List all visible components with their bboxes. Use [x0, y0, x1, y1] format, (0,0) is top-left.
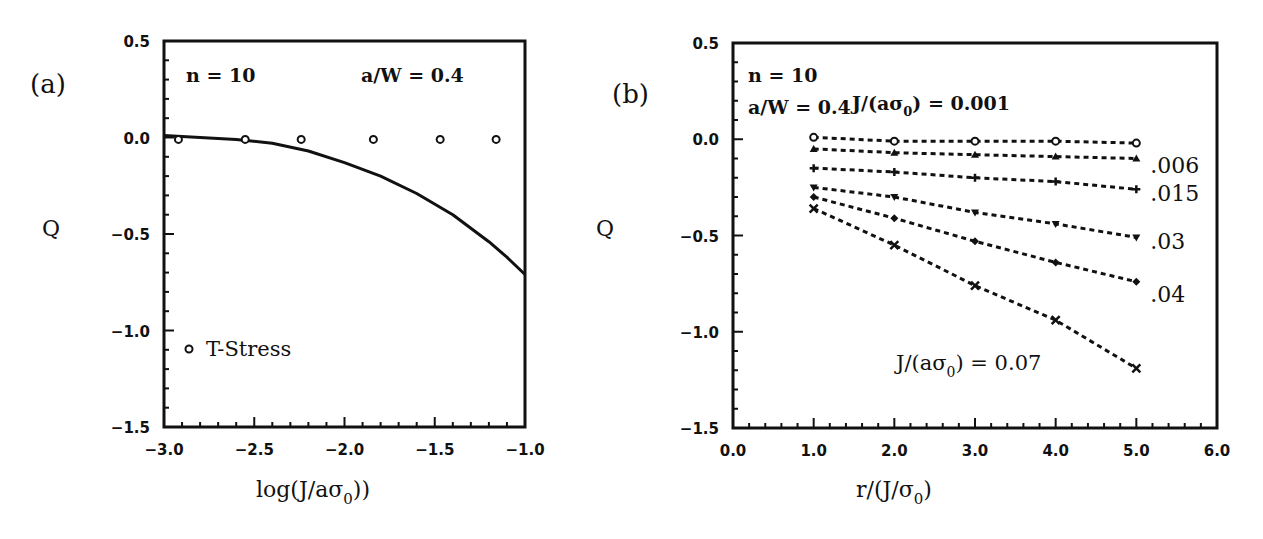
panel-a-x-axis-title: log(J/aσ0)): [256, 477, 370, 508]
y-tick-label: −1.5: [111, 419, 150, 437]
panel-a-y-axis-title: Q: [42, 216, 60, 241]
x-tick-label: 6.0: [1204, 442, 1231, 460]
circle-marker-icon: [175, 136, 182, 143]
y-tick-label: −1.0: [111, 323, 150, 341]
q-curve-line: [164, 136, 525, 275]
panel-b-x-axis-title: r/(J/σ0): [856, 477, 932, 508]
x-tick-label: 4.0: [1042, 442, 1069, 460]
circle-marker-icon: [810, 134, 817, 141]
panel-a-frame: [164, 41, 525, 427]
panel-b-chart: 0.01.02.03.04.05.06.00.50.0−0.5−1.0−1.5 …: [596, 35, 1230, 508]
panel-b-annotation-bottom: J/(aσ0) = 0.07: [894, 351, 1041, 380]
circle-marker-icon: [298, 136, 305, 143]
panel-a-label: (a): [30, 69, 66, 99]
x-tick-label: 2.0: [881, 442, 908, 460]
panel-a-ticks: −3.0−2.5−2.0−1.5−1.00.50.0−0.5−1.0−1.5: [111, 33, 545, 459]
panel-b-series: .006.015.03.04: [810, 134, 1200, 373]
panel-b-annotation-top: J/(aσ0) = 0.001: [850, 92, 1010, 119]
circle-marker-icon: [891, 138, 898, 145]
panel-b-annotation-aw: a/W = 0.4: [748, 96, 851, 118]
panel-a-xlabel-sub: 0: [343, 490, 353, 508]
x-tick-label: −2.0: [325, 441, 364, 459]
panel-a-chart: −3.0−2.5−2.0−1.5−1.00.50.0−0.5−1.0−1.5 (…: [30, 33, 545, 508]
triangle-down-marker-icon: [1132, 234, 1140, 241]
y-tick-label: −0.5: [680, 228, 719, 246]
legend-circle-icon: [186, 346, 193, 353]
circle-marker-icon: [437, 136, 444, 143]
x-tick-label: 1.0: [800, 442, 827, 460]
annot-top-pre: J/(aσ: [850, 92, 903, 114]
x-tick-label: −2.5: [235, 441, 274, 459]
y-tick-label: −1.5: [680, 420, 719, 438]
circle-marker-icon: [242, 136, 249, 143]
panel-a-series: [164, 136, 525, 275]
y-tick-label: −1.0: [680, 324, 719, 342]
annot-top-post: ) = 0.001: [912, 92, 1010, 114]
x-tick-label: −3.0: [144, 441, 183, 459]
diamond-marker-icon: [971, 237, 979, 245]
series-end-label: .006: [1150, 153, 1199, 178]
panel-b-annotation-n: n = 10: [748, 64, 817, 86]
plus-marker-icon: [890, 168, 898, 176]
x-tick-label: −1.5: [415, 441, 454, 459]
x-marker-icon: [1132, 364, 1140, 372]
y-tick-label: 0.0: [692, 131, 719, 149]
panel-a-xlabel-main: log(J/aσ: [256, 477, 343, 502]
diamond-marker-icon: [1052, 258, 1060, 266]
annot-bottom-post: ) = 0.07: [955, 351, 1041, 375]
series-line: [814, 209, 1137, 369]
panel-a-xlabel-end: )): [353, 477, 370, 502]
panel-a-annotation-aw: a/W = 0.4: [361, 64, 464, 86]
panel-b-label: (b): [612, 79, 649, 109]
y-tick-label: −0.5: [111, 226, 150, 244]
circle-marker-icon: [1052, 138, 1059, 145]
circle-marker-icon: [370, 136, 377, 143]
series-end-label: .015: [1150, 181, 1199, 206]
y-tick-label: 0.0: [123, 130, 150, 148]
circle-marker-icon: [972, 138, 979, 145]
figure: −3.0−2.5−2.0−1.5−1.00.50.0−0.5−1.0−1.5 (…: [0, 0, 1263, 539]
x-tick-label: 0.0: [720, 442, 747, 460]
panel-b-xlabel-end: ): [923, 477, 932, 502]
panel-a-annotation-n: n = 10: [186, 64, 255, 86]
plus-marker-icon: [1052, 178, 1060, 186]
series-end-label: .03: [1150, 229, 1185, 254]
x-tick-label: 5.0: [1123, 442, 1150, 460]
plus-marker-icon: [810, 164, 818, 172]
legend-label-t-stress: T-Stress: [206, 337, 291, 361]
diamond-marker-icon: [1132, 278, 1140, 286]
diamond-marker-icon: [810, 193, 818, 201]
annot-bottom-pre: J/(aσ: [894, 351, 947, 375]
y-tick-label: 0.5: [692, 35, 719, 53]
series-end-label: .04: [1150, 282, 1185, 307]
annot-top-sub: 0: [903, 104, 912, 119]
plus-marker-icon: [1132, 185, 1140, 193]
panel-b-xlabel-sub: 0: [914, 490, 924, 508]
y-tick-label: 0.5: [123, 33, 150, 51]
panel-b-y-axis-title: Q: [596, 216, 614, 241]
annot-bottom-sub: 0: [947, 364, 956, 380]
x-tick-label: −1.0: [505, 441, 544, 459]
circle-marker-icon: [493, 136, 500, 143]
panel-b-xlabel-main: r/(J/σ: [856, 477, 914, 502]
plus-marker-icon: [971, 174, 979, 182]
x-tick-label: 3.0: [962, 442, 989, 460]
diamond-marker-icon: [890, 214, 898, 222]
circle-marker-icon: [1133, 140, 1140, 147]
